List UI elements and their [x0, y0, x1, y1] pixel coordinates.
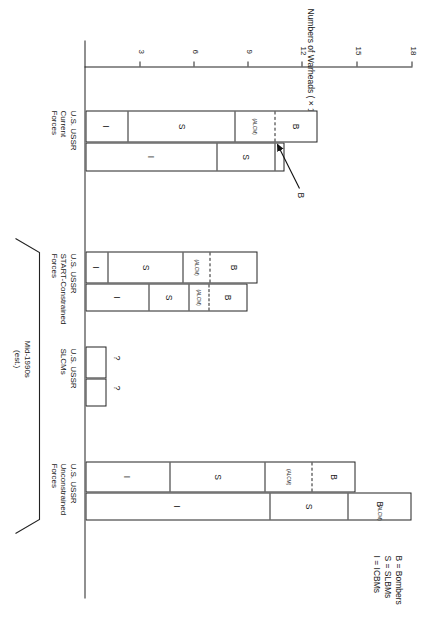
legend-item-icbms: I = ICBMs [370, 555, 381, 604]
segment-label: I [146, 155, 155, 157]
bar-segment-icbms: I [84, 284, 148, 310]
axis-tick [247, 61, 248, 66]
bar-current-us: B (ALCM) S I [85, 110, 317, 142]
segment-label: B [291, 123, 300, 129]
category-label-countries: U.S. USSR [68, 110, 78, 150]
category-label-line3: Forces [49, 110, 59, 150]
bar-slcm-ussr [85, 378, 106, 406]
bar-segment-bombers: B [311, 462, 354, 491]
segment-label: B [229, 264, 238, 270]
bar-unconstrained-us: B (ALCM) S I [85, 461, 355, 492]
bar-segment-icbms: I [84, 111, 127, 141]
axis-tick [139, 61, 140, 66]
bar-segment-bombers: B [209, 252, 256, 282]
category-label-line3: Forces [49, 463, 59, 515]
segment-label: (ALCM) [377, 504, 382, 520]
slcm-us-unknown-label: ? [111, 355, 121, 360]
bar-segment-slbms: S [148, 284, 188, 310]
bar-segment-alcm: (ALCM) [234, 111, 274, 141]
axis-tick [356, 61, 357, 66]
category-label-line2: Current [58, 110, 68, 150]
mid-1990s-estimate: (est.) [12, 340, 22, 377]
axis-tick-label: 15 [353, 46, 361, 55]
axis-tick-label: 9 [244, 49, 252, 53]
segment-label: S [141, 264, 150, 270]
bar-segment-slbms: S [269, 493, 347, 519]
bar-slcm-us [85, 346, 106, 378]
mid-1990s-bracket [11, 236, 41, 536]
category-label-line2: START-Constrained [58, 253, 68, 324]
legend: B = Bombers S = SLBMs I = ICBMs [370, 555, 403, 604]
chart-canvas-rotated: 18 15 12 9 6 3 Numbers of Warheads ( × 1… [0, 0, 425, 628]
segment-label: I [172, 505, 181, 507]
segment-label: S [177, 123, 186, 129]
bar-segment-icbms: I [84, 143, 216, 170]
mid-1990s-label: Mid-1990s (est.) [12, 340, 31, 377]
category-label-start: U.S. USSR START-Constrained Forces [49, 253, 78, 324]
bar-segment-alcm: (ALCM) [188, 284, 208, 310]
bomber-callout-arrow [247, 140, 307, 210]
bar-segment-icbms: I [84, 462, 169, 491]
bar-segment-icbms: I [84, 493, 269, 519]
segment-label: B [223, 294, 232, 300]
category-label-countries: U.S. USSR [68, 463, 78, 515]
segment-label: S [213, 474, 222, 480]
segment-label: I [91, 266, 100, 268]
segment-label: I [101, 125, 110, 127]
category-label-unconstrained: U.S. USSR Unconstrained Forces [49, 463, 78, 515]
segment-label: (ALCM) [252, 118, 257, 134]
bomber-callout-label: B [295, 192, 305, 198]
segment-label: (ALCM) [194, 259, 199, 275]
slcm-ussr-unknown-label: ? [111, 385, 121, 390]
mid-1990s-primary: Mid-1990s [22, 340, 32, 377]
bar-segment-slbms: S [169, 462, 264, 491]
axis-tick [301, 61, 302, 66]
segment-label: B [329, 474, 338, 480]
axis-tick [411, 61, 412, 66]
segment-label: S [304, 503, 313, 509]
category-label-current: U.S. USSR Current Forces [49, 110, 78, 150]
bar-segment-slbms: S [107, 252, 182, 282]
bar-segment-bombers: B [274, 111, 316, 141]
segment-label: S [164, 294, 173, 300]
segment-label: I [112, 296, 121, 298]
category-label-countries: U.S. USSR [68, 253, 78, 324]
category-label-line2: Unconstrained [58, 463, 68, 515]
category-label-slcm: U.S. USSR SLCMs [58, 348, 77, 388]
legend-item-slbms: S = SLBMs [381, 555, 392, 604]
bar-unconstrained-ussr: B (ALCM) S I [85, 492, 411, 520]
category-label-line3: Forces [49, 253, 59, 324]
bar-segment-icbms: I [84, 252, 107, 282]
category-label-line2: SLCMs [58, 348, 68, 388]
bar-segment-alcm: (ALCM) [264, 462, 311, 491]
bar-start-us: B (ALCM) S I [85, 251, 257, 283]
bar-start-ussr: B (ALCM) S I [85, 283, 247, 311]
axis-tick-label: 6 [190, 49, 198, 53]
figure-page: 18 15 12 9 6 3 Numbers of Warheads ( × 1… [0, 0, 425, 628]
bar-segment-bombers-alcm: B (ALCM) [347, 493, 410, 519]
category-label-countries: U.S. USSR [68, 348, 78, 388]
axis-tick-label: 18 [408, 46, 416, 55]
segment-label: (ALCM) [196, 289, 201, 305]
bar-segment-alcm: (ALCM) [182, 252, 209, 282]
segment-label: I [122, 475, 131, 477]
legend-item-bombers: B = Bombers [392, 555, 403, 604]
axis-tick [193, 61, 194, 66]
bar-segment-bombers: B [208, 284, 246, 310]
chart-plot-area: 18 15 12 9 6 3 Numbers of Warheads ( × 1… [0, 0, 425, 628]
axis-tick-label: 3 [136, 49, 144, 53]
segment-label: (ALCM) [286, 468, 291, 484]
bar-segment-slbms: S [127, 111, 234, 141]
